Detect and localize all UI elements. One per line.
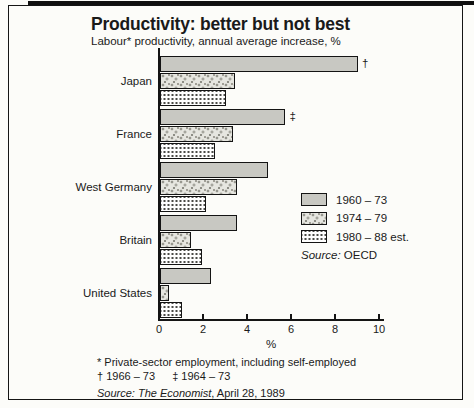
x-tick — [378, 314, 380, 319]
bar-row — [160, 90, 368, 107]
category-label-france: France — [8, 126, 152, 143]
bars-container: Japan†France‡West GermanyBritainUnited S… — [160, 56, 368, 321]
source-suffix: , April 28, 1989 — [211, 387, 284, 399]
legend-label: 1974 – 79 — [336, 212, 387, 224]
legend-item-1960-73: 1960 – 73 — [301, 193, 409, 206]
bar-britain-series-2 — [160, 249, 202, 265]
bar-row — [160, 302, 368, 319]
bar-row — [160, 126, 368, 143]
x-tick-label: 4 — [238, 323, 256, 335]
footnote-daggers: † 1966 – 73 ‡ 1964 – 73 — [97, 370, 230, 382]
bar-japan-series-2 — [160, 90, 226, 106]
x-tick-label: 8 — [326, 323, 344, 335]
bar-japan-series-1 — [160, 73, 235, 89]
bar-group-france: France‡ — [160, 109, 368, 160]
bar-united-states-series-2 — [160, 302, 182, 318]
chart-subtitle: Labour* productivity, annual average inc… — [91, 35, 341, 47]
legend-swatch-solid — [301, 193, 327, 206]
bar-united-states-series-0 — [160, 268, 211, 284]
legend: 1960 – 73 1974 – 79 1980 – 88 est. Sourc… — [301, 193, 409, 261]
bar-france-series-1 — [160, 126, 233, 142]
category-label-japan: Japan — [8, 73, 152, 90]
legend-item-1974-79: 1974 – 79 — [301, 212, 409, 225]
bar-group-united-states: United States — [160, 268, 368, 319]
dagger-note: † 1966 – 73 — [97, 370, 155, 382]
x-tick-label: 6 — [282, 323, 300, 335]
bar-row: ‡ — [160, 109, 368, 126]
source-label: Source: — [97, 387, 135, 399]
legend-source-value: OECD — [344, 249, 377, 261]
legend-label: 1960 – 73 — [336, 194, 387, 206]
legend-swatch-dotted — [301, 230, 327, 243]
bar-france-series-2 — [160, 143, 215, 159]
x-tick — [246, 314, 248, 319]
legend-source: Source: OECD — [301, 249, 409, 261]
category-label-britain: Britain — [8, 232, 152, 249]
bar-france-series-0 — [160, 109, 285, 125]
bar-united-states-series-1 — [160, 285, 169, 301]
chart-title: Productivity: better but not best — [91, 14, 350, 35]
x-axis-line — [159, 319, 384, 321]
bar-row — [160, 73, 368, 90]
source-line: Source: The Economist, April 28, 1989 — [97, 387, 285, 399]
x-tick-label: 10 — [370, 323, 388, 335]
bar-row — [160, 162, 368, 179]
bar-britain-series-1 — [160, 232, 191, 248]
x-tick — [334, 314, 336, 319]
bar-row — [160, 285, 368, 302]
bar-west-germany-series-0 — [160, 162, 268, 178]
double-dagger-note: ‡ 1964 – 73 — [172, 370, 230, 382]
footnote-private-sector: * Private-sector employment, including s… — [97, 356, 356, 368]
bar-japan-series-0 — [160, 56, 358, 72]
legend-item-1980-88: 1980 – 88 est. — [301, 230, 409, 243]
x-tick — [290, 314, 292, 319]
legend-label: 1980 – 88 est. — [336, 231, 409, 243]
bar-britain-series-0 — [160, 215, 237, 231]
x-tick-label: 2 — [194, 323, 212, 335]
source-publication: The Economist — [138, 387, 211, 399]
chart-frame: Productivity: better but not best Labour… — [8, 5, 463, 400]
bar-west-germany-series-1 — [160, 179, 237, 195]
bar-group-japan: Japan† — [160, 56, 368, 107]
category-label-west-germany: West Germany — [8, 179, 152, 196]
bar-row: † — [160, 56, 368, 73]
footnote-marker: ‡ — [289, 109, 295, 124]
legend-source-label: Source: — [301, 249, 341, 261]
bar-west-germany-series-2 — [160, 196, 206, 212]
legend-swatch-speckled — [301, 212, 327, 225]
bar-row — [160, 268, 368, 285]
category-label-united-states: United States — [8, 285, 152, 302]
x-tick — [202, 314, 204, 319]
bar-row — [160, 143, 368, 160]
x-tick-label: 0 — [150, 323, 168, 335]
x-axis-unit-label: % — [261, 338, 281, 350]
footnote-marker: † — [362, 56, 368, 71]
